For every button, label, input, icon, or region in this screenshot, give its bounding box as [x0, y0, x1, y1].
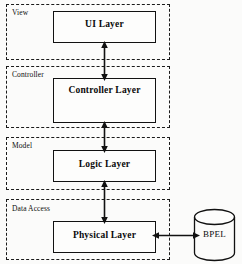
layer-label-physical: Physical Layer	[54, 231, 155, 241]
connector-logic-physical-arrow	[96, 180, 113, 224]
tier-label-controller: Controller	[12, 71, 44, 79]
architecture-diagram: View UI Layer Controller Controller Laye…	[0, 0, 242, 264]
database-label-bpel: BPEL	[192, 230, 237, 239]
layer-box-ui: UI Layer	[53, 11, 156, 43]
layer-label-logic: Logic Layer	[54, 160, 155, 170]
layer-box-controller: Controller Layer	[53, 78, 156, 123]
tier-label-model: Model	[12, 142, 32, 150]
layer-box-physical: Physical Layer	[53, 221, 156, 253]
tier-label-data-access: Data Access	[12, 205, 50, 213]
connector-ui-controller-arrow	[96, 41, 113, 81]
layer-label-ui: UI Layer	[54, 20, 155, 30]
layer-label-controller: Controller Layer	[54, 86, 155, 96]
tier-label-view: View	[12, 9, 28, 17]
layer-box-logic: Logic Layer	[53, 150, 156, 182]
connector-controller-logic-arrow	[96, 121, 113, 153]
